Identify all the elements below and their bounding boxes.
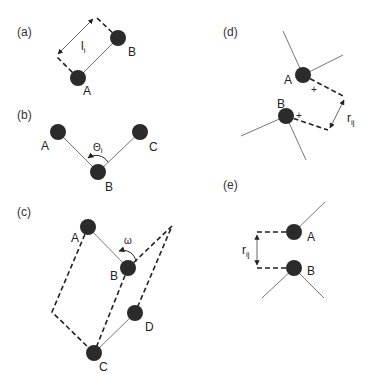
panel-b-label: (b) (17, 108, 32, 122)
panel-d-label: (d) (223, 25, 238, 39)
distance-symbol: rij (347, 111, 355, 127)
charge-b: + (296, 110, 302, 121)
panel-e-label: (e) (223, 178, 238, 192)
atom-a-label: A (83, 84, 91, 98)
distance-symbol: rij (242, 243, 250, 259)
atom-c-label: C (99, 360, 108, 374)
dashed-plane-abc-left (52, 227, 94, 353)
atom-a (50, 124, 66, 140)
atom-a-label: A (284, 73, 292, 87)
bond-ab (58, 132, 98, 172)
atom-b-label: B (277, 97, 285, 111)
panel-c: (c) A B C D ω (17, 205, 172, 374)
charge-a: + (311, 84, 317, 95)
force-field-diagram: (a) A B li (b) A B C Θi (c) (0, 0, 368, 388)
atom-a-label: A (71, 231, 79, 245)
atom-b (110, 30, 126, 46)
length-arrow (58, 19, 93, 54)
panel-d: (d) A B + + rij (223, 25, 355, 160)
angle-symbol: Θi (93, 142, 103, 155)
bond-cd (94, 313, 135, 353)
bond-bc (98, 132, 140, 172)
atom-b-label: B (110, 269, 118, 283)
atom-d-label: D (145, 320, 154, 334)
panel-c-label: (c) (17, 205, 31, 219)
atom-a-label: A (307, 230, 315, 244)
atom-a-label: A (41, 139, 49, 153)
atom-b-label: B (105, 180, 113, 194)
atom-d (127, 305, 143, 321)
atom-c (132, 124, 148, 140)
panel-a-label: (a) (17, 25, 32, 39)
panel-a: (a) A B li (17, 17, 136, 98)
atom-c-label: C (149, 140, 158, 154)
atom-b (120, 260, 136, 276)
atom-b-label: B (307, 264, 315, 278)
atom-a (80, 219, 96, 235)
atom-b (286, 260, 302, 276)
bond-length-symbol: li (81, 39, 86, 55)
bond-ab (88, 227, 128, 268)
atom-b (90, 164, 106, 180)
panel-b: (b) A B C Θi (17, 108, 158, 194)
atom-c (86, 345, 102, 361)
atom-b-label: B (128, 45, 136, 59)
angle-arc (88, 155, 108, 162)
distance-arrow (330, 100, 344, 128)
atom-a (286, 224, 302, 240)
torsion-symbol: ω (124, 235, 132, 246)
panel-e: (e) A B rij (223, 178, 325, 298)
atom-a (295, 67, 311, 83)
bond-ab (78, 38, 118, 78)
